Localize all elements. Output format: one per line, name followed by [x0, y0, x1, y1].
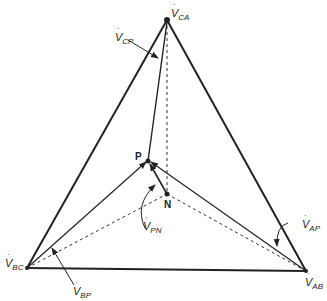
label-v-ab: VAB [305, 276, 324, 291]
node-p [146, 159, 151, 164]
svg-text:·: · [307, 269, 310, 278]
svg-text:·: · [75, 278, 78, 287]
node-bc [25, 266, 29, 270]
label-n: N [164, 199, 171, 210]
svg-text:·: · [7, 250, 10, 259]
svg-text:·: · [145, 213, 148, 222]
label-v-bp: VBP [73, 285, 92, 300]
svg-text:·: · [117, 24, 120, 33]
node-ca [164, 17, 170, 23]
label-v-ca: VCA [171, 7, 189, 22]
svg-text:·: · [304, 211, 307, 220]
label-p: P [135, 151, 142, 162]
label-v-ap: VAP [302, 218, 321, 233]
label-v-bc: VBC [5, 257, 24, 272]
node-n [165, 192, 170, 197]
label-v-pn: VPN [143, 220, 162, 235]
phasor-diagram: VCA · VCP · P N VPN · VAP · VBC · VBP · … [0, 0, 327, 301]
svg-text:·: · [173, 0, 176, 9]
neutral-lines [27, 20, 306, 271]
label-v-cp: VCP [115, 31, 134, 46]
